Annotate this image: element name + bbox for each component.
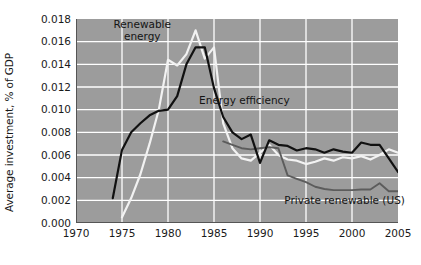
chart-figure: Average investment, % of GDP 0.0180.0160… <box>0 0 421 265</box>
x-tick-label: 1980 <box>155 228 182 239</box>
x-tick-label: 2005 <box>385 228 412 239</box>
plot-area: Renewable energy Energy efficiency Priva… <box>76 19 398 223</box>
annotation-private-renewable-us: Private renewable (US) <box>284 196 405 208</box>
plot-background <box>76 19 398 223</box>
x-tick-label: 1975 <box>109 228 136 239</box>
chart-svg <box>76 19 398 223</box>
x-tick-label: 2000 <box>339 228 366 239</box>
annotation-renewable-energy-line1: Renewable <box>114 20 171 32</box>
x-tick-label: 1995 <box>293 228 320 239</box>
annotation-energy-efficiency: Energy efficiency <box>199 95 290 107</box>
annotation-renewable-energy: Renewable energy <box>114 20 171 44</box>
annotation-renewable-energy-line2: energy <box>114 31 171 43</box>
x-tick-label: 1990 <box>247 228 274 239</box>
x-tick-label: 1970 <box>63 228 90 239</box>
x-tick-label: 1985 <box>201 228 228 239</box>
